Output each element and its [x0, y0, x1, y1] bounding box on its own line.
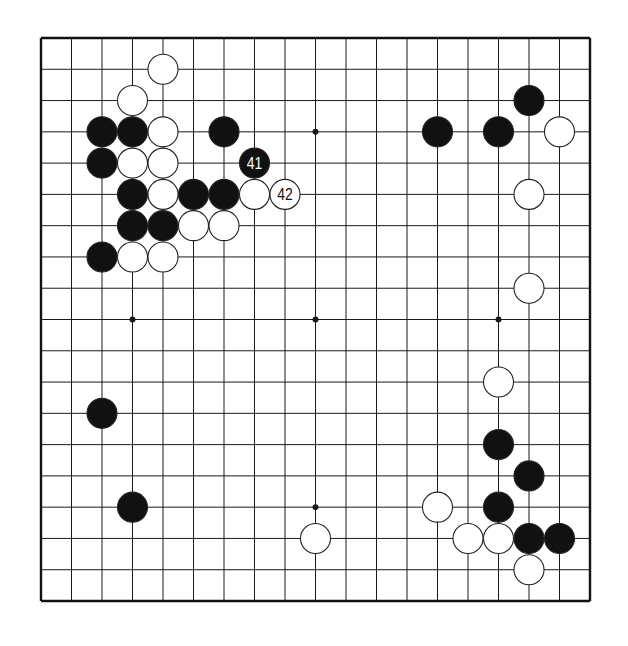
- stone-disc: [301, 523, 331, 553]
- stone-disc: [209, 179, 239, 209]
- white-stone: [301, 523, 331, 553]
- white-stone: [484, 367, 514, 397]
- black-stone: [484, 117, 514, 147]
- black-stone: [514, 86, 544, 116]
- stone-disc: [118, 148, 148, 178]
- white-stone: [545, 117, 575, 147]
- black-stone: [209, 179, 239, 209]
- go-board: 4142: [0, 0, 628, 646]
- black-stone: [179, 179, 209, 209]
- stone-disc: [148, 148, 178, 178]
- stone-disc: [118, 86, 148, 116]
- white-stone: [484, 523, 514, 553]
- white-stone: [148, 117, 178, 147]
- white-stone: [148, 179, 178, 209]
- black-stone: [118, 211, 148, 241]
- stone-disc: [209, 211, 239, 241]
- white-stone: [148, 148, 178, 178]
- white-stone: [148, 54, 178, 84]
- stone-disc: [148, 211, 178, 241]
- white-stone: 42: [270, 179, 300, 209]
- white-stone: [514, 273, 544, 303]
- black-stone: [514, 523, 544, 553]
- stone-disc: [514, 86, 544, 116]
- move-number-label: 42: [277, 185, 292, 204]
- black-stone: [209, 117, 239, 147]
- stone-disc: [179, 179, 209, 209]
- white-stone: [240, 179, 270, 209]
- stone-disc: [514, 523, 544, 553]
- white-stone: [514, 555, 544, 585]
- stone-disc: [484, 523, 514, 553]
- stone-disc: [118, 492, 148, 522]
- white-stone: [423, 492, 453, 522]
- black-stone: [87, 117, 117, 147]
- stone-disc: [148, 117, 178, 147]
- stone-disc: [453, 523, 483, 553]
- stone-disc: [118, 242, 148, 272]
- white-stone: [118, 148, 148, 178]
- black-stone: 41: [240, 148, 270, 178]
- white-stone: [514, 179, 544, 209]
- stone-disc: [87, 398, 117, 428]
- white-stone: [118, 86, 148, 116]
- black-stone: [545, 523, 575, 553]
- white-stone: [179, 211, 209, 241]
- star-point: [313, 317, 319, 323]
- stone-disc: [148, 54, 178, 84]
- black-stone: [484, 492, 514, 522]
- stone-disc: [209, 117, 239, 147]
- star-point: [313, 129, 319, 135]
- stone-disc: [484, 430, 514, 460]
- stone-disc: [118, 211, 148, 241]
- black-stone: [87, 398, 117, 428]
- stone-disc: [423, 117, 453, 147]
- stone-disc: [148, 242, 178, 272]
- stone-disc: [484, 367, 514, 397]
- black-stone: [87, 148, 117, 178]
- black-stone: [514, 461, 544, 491]
- move-number-label: 41: [247, 154, 262, 173]
- black-stone: [118, 492, 148, 522]
- stone-disc: [514, 273, 544, 303]
- stone-disc: [118, 179, 148, 209]
- black-stone: [118, 179, 148, 209]
- stone-disc: [87, 148, 117, 178]
- black-stone: [87, 242, 117, 272]
- stone-disc: [545, 523, 575, 553]
- black-stone: [423, 117, 453, 147]
- white-stone: [453, 523, 483, 553]
- stone-disc: [484, 117, 514, 147]
- black-stone: [148, 211, 178, 241]
- black-stone: [118, 117, 148, 147]
- stone-disc: [423, 492, 453, 522]
- stone-disc: [87, 117, 117, 147]
- white-stone: [118, 242, 148, 272]
- star-point: [313, 504, 319, 510]
- stone-disc: [514, 555, 544, 585]
- white-stone: [209, 211, 239, 241]
- white-stone: [148, 242, 178, 272]
- stone-disc: [514, 179, 544, 209]
- stone-disc: [514, 461, 544, 491]
- stone-disc: [148, 179, 178, 209]
- stone-disc: [484, 492, 514, 522]
- stone-disc: [118, 117, 148, 147]
- stone-disc: [545, 117, 575, 147]
- star-point: [496, 317, 502, 323]
- stone-disc: [87, 242, 117, 272]
- stone-disc: [179, 211, 209, 241]
- stone-disc: [240, 179, 270, 209]
- black-stone: [484, 430, 514, 460]
- star-point: [130, 317, 136, 323]
